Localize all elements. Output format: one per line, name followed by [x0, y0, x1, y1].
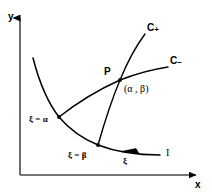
figure-canvas — [0, 0, 212, 193]
xi-equals-beta-label: ξ = β — [68, 151, 86, 160]
c-plus-sign: + — [154, 25, 159, 34]
c-minus-label: C− — [170, 56, 182, 67]
xi-equals-alpha-label: ξ = α — [29, 115, 48, 124]
point-p-label: P — [104, 67, 111, 77]
initial-curve-label: I — [166, 148, 169, 158]
x-axis-label: x — [195, 180, 201, 190]
coordinates-label: (α , β) — [124, 84, 149, 94]
characteristic-diagram-figure: y x C+ C− P (α , β) ξ = α ξ = β ξ I — [0, 0, 212, 193]
c-minus-curve — [59, 67, 168, 117]
c-plus-label: C+ — [147, 23, 159, 34]
node-dot-p — [118, 78, 122, 82]
y-axis-label: y — [8, 12, 14, 22]
node-dot-xi-alpha — [57, 115, 61, 119]
node-dot-xi-beta — [96, 143, 100, 147]
xi-direction-label: ξ — [123, 157, 127, 166]
c-minus-sign: − — [177, 58, 182, 67]
